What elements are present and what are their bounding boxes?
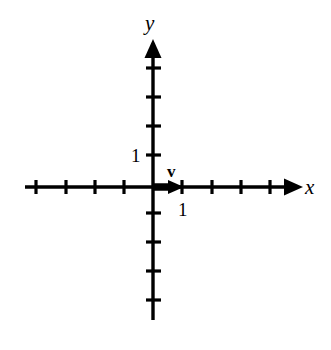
coordinate-axes-canvas xyxy=(0,0,331,350)
vector-diagram-figure: y x 1 1 v xyxy=(0,0,331,350)
x-unit-tick-label: 1 xyxy=(178,200,188,219)
figure-background xyxy=(0,0,331,350)
x-axis-label: x xyxy=(305,177,314,198)
y-axis-label: y xyxy=(145,13,154,34)
vector-v-label: v xyxy=(167,163,176,180)
y-unit-tick-label: 1 xyxy=(131,146,141,165)
